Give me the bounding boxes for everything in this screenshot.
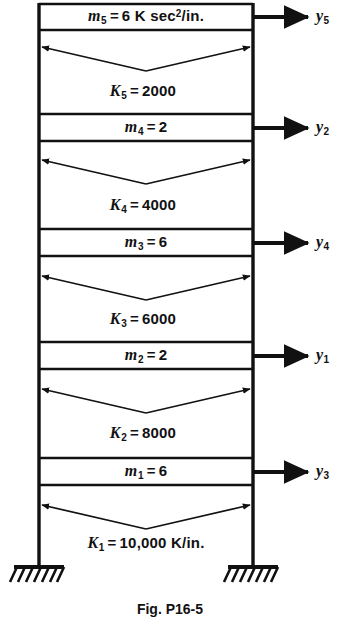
stiffness-equals-k2: = <box>128 424 142 441</box>
stiffness-symbol-k2: K <box>110 424 121 441</box>
brace-k5 <box>42 47 250 71</box>
stiffness-equals-k5: = <box>128 82 142 99</box>
stiffness-label-k1: K1=10,000 K/in. <box>87 535 204 553</box>
stiffness-value-k3: 6000 <box>142 310 176 327</box>
mass-value-m4: 2 <box>159 118 168 135</box>
support-hatching-right <box>224 567 278 582</box>
stiffness-label-k5: K5=2000 <box>110 83 176 101</box>
mass-subscript-m5: 5 <box>101 15 108 26</box>
mass-label-m3: m3=6 <box>125 234 167 252</box>
stiffness-symbol-k3: K <box>110 310 121 327</box>
mass-subscript-m2: 2 <box>137 354 144 365</box>
dof-subscript-y3: 3 <box>323 470 330 481</box>
dof-subscript-y1: 1 <box>323 354 330 365</box>
stiffness-value-k4: 4000 <box>142 196 176 213</box>
stiffness-value-k2: 8000 <box>142 424 176 441</box>
stiffness-value-k1: 10,000 <box>120 534 167 551</box>
fixed-base-right <box>224 567 278 582</box>
stiffness-label-k4: K4=4000 <box>110 197 176 215</box>
stiffness-label-k3: K3=6000 <box>110 311 176 329</box>
stiffness-symbol-k5: K <box>110 82 121 99</box>
stiffness-unit-k1: K/in. <box>171 534 205 551</box>
support-hatching-left <box>10 567 64 582</box>
dof-label-y5: y5 <box>316 8 330 26</box>
mass-label-m2: m2=2 <box>125 347 167 365</box>
stiffness-symbol-k4: K <box>110 196 121 213</box>
dof-subscript-y5: 5 <box>323 15 330 26</box>
mass-equals-m4: = <box>145 118 159 135</box>
stiffness-value-k5: 2000 <box>142 82 176 99</box>
mass-label-m5: m5=6 K sec2/in. <box>88 8 204 26</box>
mass-equals-m5: = <box>108 7 122 24</box>
mass-value-m2: 2 <box>159 346 168 363</box>
mass-equals-m3: = <box>145 233 159 250</box>
mass-equals-m1: = <box>145 462 159 479</box>
brace-k2 <box>42 389 250 413</box>
mass-subscript-m4: 4 <box>137 126 144 137</box>
mass-value-m3: 6 <box>159 233 168 250</box>
fixed-base-left <box>10 567 64 582</box>
stiffness-symbol-k1: K <box>87 534 98 551</box>
mass-symbol-m4: m <box>125 118 138 135</box>
figure-caption: Fig. P16-5 <box>137 601 203 617</box>
stiffness-label-k2: K2=8000 <box>110 425 176 443</box>
mass-subscript-m1: 1 <box>137 470 144 481</box>
mass-label-m1: m1=6 <box>125 463 167 481</box>
dof-arrows <box>254 17 308 472</box>
mass-equals-m2: = <box>145 346 159 363</box>
stiffness-equals-k1: = <box>106 534 120 551</box>
mass-value-m1: 6 <box>159 462 168 479</box>
stiffness-equals-k3: = <box>128 310 142 327</box>
mass-symbol-m2: m <box>125 346 138 363</box>
mass-unit-prefix-m5: K sec <box>135 7 176 24</box>
dof-subscript-y2: 2 <box>323 126 330 137</box>
brace-k3 <box>42 276 250 300</box>
mass-subscript-m3: 3 <box>137 241 144 252</box>
mass-symbol-m1: m <box>125 462 138 479</box>
stiffness-equals-k4: = <box>128 196 142 213</box>
mass-symbol-m3: m <box>125 233 138 250</box>
dof-label-y2: y2 <box>316 119 330 137</box>
mass-symbol-m5: m <box>88 7 101 24</box>
mass-label-m4: m4=2 <box>125 119 167 137</box>
dof-label-y1: y1 <box>316 347 330 365</box>
dof-label-y4: y4 <box>316 234 330 252</box>
dof-label-y3: y3 <box>316 463 330 481</box>
brace-k4 <box>42 160 250 184</box>
mass-value-m5: 6 <box>122 7 131 24</box>
dof-subscript-y4: 4 <box>323 241 330 252</box>
brace-k1 <box>42 505 250 529</box>
mass-unit-suffix-m5: /in. <box>182 7 204 24</box>
